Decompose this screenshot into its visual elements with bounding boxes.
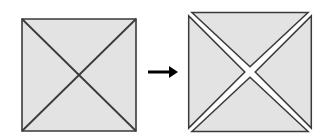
transformation-arrow (148, 66, 178, 78)
arrow-head-icon (169, 66, 178, 78)
right-figure-group (189, 13, 312, 132)
diagram-canvas (0, 0, 334, 140)
left-figure-group (22, 19, 136, 131)
square-dissection-diagram (0, 0, 334, 140)
